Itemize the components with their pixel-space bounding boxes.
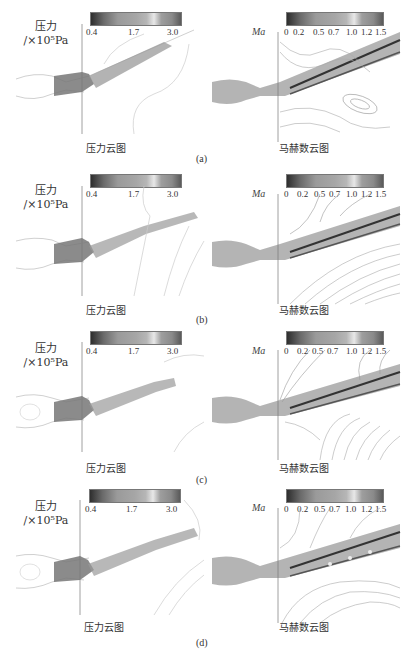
mach-caption: 马赫数云图 [279, 619, 329, 634]
mach-caption: 马赫数云图 [279, 302, 329, 317]
mach-contour-plot [210, 350, 400, 460]
pressure-caption: 压力云图 [86, 302, 126, 317]
mach-colorbar [286, 174, 384, 188]
subfigure-label: (b) [196, 314, 208, 325]
pressure-caption: 压力云图 [86, 460, 126, 475]
mach-contour-plot [210, 508, 400, 623]
subfigure-label: (c) [196, 474, 207, 485]
mach-caption: 马赫数云图 [279, 460, 329, 475]
mach-contour-plot [210, 194, 400, 304]
pressure-contour-plot [14, 500, 204, 615]
pressure-contour-plot [14, 342, 204, 452]
pressure-contour-plot [14, 186, 204, 296]
pressure-contour-plot [14, 24, 204, 134]
panel-a: 压力 /×10⁵Pa 0.4 1.7 3.0 压力云图 Ma 0 0.2 0.5… [0, 0, 407, 160]
panel-c: 压力 /×10⁵Pa 0.4 1.7 3.0 压力云图 Ma 0 0.2 0.5… [0, 326, 407, 486]
mach-colorbar [286, 331, 384, 345]
pressure-caption: 压力云图 [84, 619, 124, 634]
pressure-caption: 压力云图 [86, 140, 126, 155]
panel-d: 压力 /×10⁵Pa 0.4 1.7 3.0 压力云图 Ma 0 0.2 0.5… [0, 486, 407, 657]
subfigure-label: (d) [196, 637, 208, 648]
subfigure-label: (a) [196, 153, 207, 164]
mach-colorbar [286, 489, 384, 503]
mach-caption: 马赫数云图 [279, 140, 329, 155]
mach-contour-plot [210, 32, 400, 142]
mach-colorbar [286, 12, 384, 26]
panel-b: 压力 /×10⁵Pa 0.4 1.7 3.0 压力云图 Ma 0 0.2 0.5… [0, 166, 407, 326]
